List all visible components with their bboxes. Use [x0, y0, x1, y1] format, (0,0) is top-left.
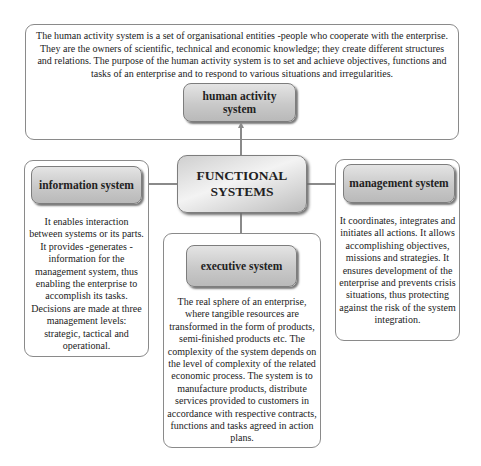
connector-left [148, 183, 177, 185]
human-activity-label-line1: human activity [203, 90, 277, 103]
connector-up [240, 128, 242, 155]
human-activity-label-line2: system [223, 103, 256, 116]
human-activity-label: human activity system [183, 83, 296, 122]
information-system-description: It enables interaction between systems o… [28, 216, 145, 352]
management-system-description: It coordinates, integrates and initiates… [337, 215, 458, 327]
connector-right [307, 183, 337, 185]
arrow-up-icon [238, 122, 244, 128]
functional-systems-line2: SYSTEMS [210, 184, 273, 200]
management-system-label: management system [343, 164, 455, 203]
executive-system-label: executive system [186, 245, 297, 287]
functional-systems-line1: FUNCTIONAL [197, 168, 288, 184]
executive-system-description: The real sphere of an enterprise, where … [167, 296, 317, 445]
information-system-label: information system [31, 166, 142, 204]
human-activity-description: The human activity system is a set of or… [32, 30, 452, 80]
functional-systems-node: FUNCTIONAL SYSTEMS [177, 155, 307, 213]
